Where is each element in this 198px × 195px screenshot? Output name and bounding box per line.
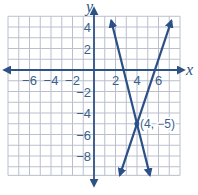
y-tick-label: 2 [84, 42, 91, 57]
y-tick-label: −4 [76, 106, 91, 121]
x-tick-label: 6 [155, 73, 162, 88]
y-tick-label: −2 [76, 85, 91, 100]
x-tick-label: −6 [22, 73, 37, 88]
intersection-label: (4, −5) [140, 117, 175, 131]
coordinate-plane: −6−4−224642−2−4−6−8 x y (4, −5) [0, 0, 198, 195]
x-tick-label: 2 [112, 73, 119, 88]
axes [4, 8, 184, 186]
line-a [111, 21, 150, 176]
line-b [120, 21, 172, 176]
graph-lines [111, 21, 171, 176]
y-axis-label: y [84, 0, 94, 16]
y-tick-label: −6 [76, 128, 91, 143]
x-tick-label: 4 [133, 73, 140, 88]
x-tick-label: −4 [44, 73, 59, 88]
y-tick-label: −8 [76, 149, 91, 164]
y-tick-label: 4 [84, 20, 91, 35]
intersection-point [134, 121, 139, 126]
x-axis-label: x [185, 61, 193, 78]
